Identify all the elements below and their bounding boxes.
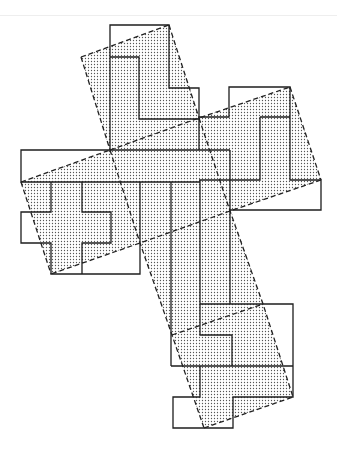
dissection-diagram [0,0,337,457]
